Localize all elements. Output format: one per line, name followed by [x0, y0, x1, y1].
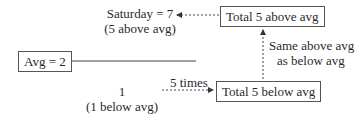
- same-line1: Same above avg: [269, 38, 354, 53]
- saturday-value: Saturday = 7: [104, 6, 176, 21]
- saturday-label: Saturday = 7 (5 above avg): [104, 6, 176, 36]
- total-below-box: Total 5 below avg: [216, 81, 321, 102]
- total-above-box: Total 5 above avg: [220, 6, 325, 27]
- same-label: Same above avg as below avg: [269, 38, 354, 68]
- avg-box: Avg = 2: [18, 51, 72, 72]
- one-label: 1 (1 below avg): [82, 84, 162, 114]
- saturday-note: (5 above avg): [104, 21, 176, 36]
- one-value: 1: [82, 84, 162, 99]
- same-line2: as below avg: [269, 53, 354, 68]
- one-note: (1 below avg): [82, 99, 162, 114]
- five-times-label: 5 times: [170, 75, 208, 90]
